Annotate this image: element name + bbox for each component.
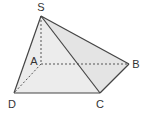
vertex-label-a: A	[30, 55, 38, 67]
vertex-label-b: B	[132, 58, 139, 70]
vertex-label-d: D	[8, 98, 16, 110]
pyramid-diagram: S A B C D	[0, 0, 144, 116]
vertex-label-c: C	[96, 98, 104, 110]
vertex-label-s: S	[37, 1, 44, 13]
